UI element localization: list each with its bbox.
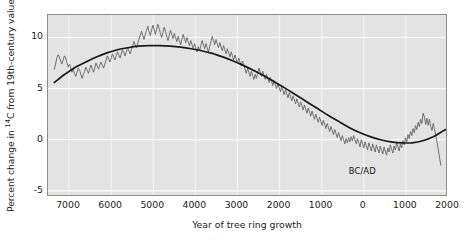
plot-canvas <box>48 15 447 196</box>
bc-ad-annotation: BC/AD <box>349 166 376 176</box>
plot-panel: BC/AD <box>47 14 447 196</box>
x-axis-tick-label: 1000 <box>381 199 429 211</box>
x-axis-tick-labels: 7000600050004000300020001000010002000 <box>0 199 468 213</box>
x-axis-title: Year of tree ring growth <box>47 219 447 230</box>
gridlines <box>48 15 447 196</box>
trend-curve <box>54 46 446 143</box>
y-axis-tick-label: -5 <box>14 185 43 195</box>
x-axis-tick-label: 2000 <box>255 199 303 211</box>
x-axis-tick-label: 5000 <box>128 199 176 211</box>
x-axis-tick-label: 3000 <box>212 199 260 211</box>
y-axis-title-superscript: 14 <box>4 119 12 127</box>
chart-figure: Percent change in 14C from 19th-century … <box>0 0 468 246</box>
x-axis-tick-label: 7000 <box>44 199 92 211</box>
x-axis-tick-label: 4000 <box>170 199 218 211</box>
x-axis-tick-label: 6000 <box>86 199 134 211</box>
y-axis-tick-label: 5 <box>14 83 43 93</box>
data-line <box>54 24 441 165</box>
y-axis-tick-label: 10 <box>14 31 43 41</box>
y-axis-tick-label: 0 <box>14 134 43 144</box>
data-series-layer <box>54 24 446 165</box>
x-axis-tick-label: 1000 <box>297 199 345 211</box>
x-axis-tick-label: 0 <box>339 199 387 211</box>
x-axis-tick-label: 2000 <box>423 199 468 211</box>
